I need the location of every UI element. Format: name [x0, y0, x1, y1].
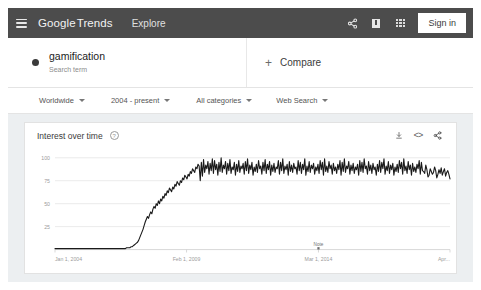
add-comparison-button[interactable]: + Compare [247, 38, 473, 87]
sign-in-button[interactable]: Sign in [418, 13, 466, 33]
filter-category[interactable]: All categories [196, 96, 252, 105]
svg-text:Apr...: Apr... [438, 256, 450, 262]
apps-grid-glyph [396, 19, 405, 28]
card-header: Interest over time ? <> [25, 123, 456, 148]
embed-code-icon[interactable]: <> [410, 129, 426, 143]
filter-category-label: All categories [196, 96, 241, 105]
chevron-down-icon [79, 99, 85, 102]
interest-over-time-chart[interactable]: 100755025Jan 1, 2004Feb 1, 2009Mar 1, 20… [25, 148, 456, 273]
help-circle-icon[interactable]: ? [110, 131, 119, 140]
chevron-down-icon [322, 99, 328, 102]
filter-location-label: Worldwide [39, 96, 74, 105]
filter-time-range-label: 2004 - present [111, 96, 159, 105]
filter-time-range[interactable]: 2004 - present [111, 96, 170, 105]
chevron-down-icon [246, 99, 252, 102]
brand-google-text: Google [38, 17, 76, 29]
hamburger-icon[interactable] [16, 19, 27, 28]
svg-text:Note: Note [314, 242, 324, 247]
search-term-text: gamification Search term [49, 50, 105, 75]
search-term-row: gamification Search term + Compare [8, 38, 473, 88]
embed-glyph: <> [414, 131, 423, 141]
svg-text:Jan 1, 2004: Jan 1, 2004 [55, 256, 82, 262]
plus-icon: + [265, 57, 272, 69]
nav-item-explore[interactable]: Explore [132, 18, 166, 29]
compare-label: Compare [280, 57, 321, 68]
svg-text:75: 75 [44, 178, 50, 184]
feedback-glyph [372, 19, 380, 28]
filter-search-type[interactable]: Web Search [276, 96, 328, 105]
svg-text:25: 25 [44, 224, 50, 230]
filter-location[interactable]: Worldwide [39, 96, 85, 105]
search-term-subtitle: Search term [49, 64, 105, 75]
chart-plot-area: 100755025Jan 1, 2004Feb 1, 2009Mar 1, 20… [25, 148, 456, 273]
brand-trends-text: Trends [77, 17, 113, 29]
chevron-down-icon [164, 99, 170, 102]
search-term-card[interactable]: gamification Search term [8, 38, 247, 87]
svg-text:50: 50 [44, 201, 50, 207]
download-icon[interactable] [391, 129, 407, 143]
svg-text:Mar 1, 2014: Mar 1, 2014 [305, 256, 333, 262]
filter-search-type-label: Web Search [276, 96, 317, 105]
interest-over-time-card: Interest over time ? <> [24, 122, 457, 274]
app-header: GoogleTrends Explore Sign in [8, 8, 473, 38]
feedback-icon[interactable] [366, 13, 386, 33]
series-color-dot [32, 59, 39, 66]
search-term-title: gamification [49, 50, 105, 63]
apps-grid-icon[interactable] [390, 13, 410, 33]
svg-text:Feb 1, 2009: Feb 1, 2009 [173, 256, 201, 262]
google-trends-page: GoogleTrends Explore Sign in [0, 0, 481, 290]
filter-bar: Worldwide 2004 - present All categories … [8, 88, 473, 114]
share-icon[interactable] [429, 129, 445, 143]
share-icon[interactable] [342, 13, 362, 33]
svg-text:100: 100 [41, 155, 50, 161]
brand-logo[interactable]: GoogleTrends [38, 17, 113, 29]
card-title: Interest over time [37, 131, 103, 141]
